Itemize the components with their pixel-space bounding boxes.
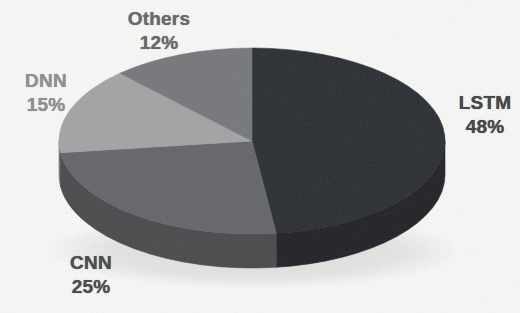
pie-label-cnn-pct: 25% xyxy=(70,275,112,299)
pie-label-lstm-name: LSTM xyxy=(459,91,512,115)
pie-label-lstm-pct: 48% xyxy=(459,115,512,139)
scanned-figure: Others 12% DNN 15% LSTM 48% CNN 25% xyxy=(0,0,520,313)
pie-label-cnn-name: CNN xyxy=(70,251,112,275)
pie-label-dnn-name: DNN xyxy=(25,69,67,93)
pie-label-others-pct: 12% xyxy=(128,31,190,55)
pie-label-cnn: CNN 25% xyxy=(70,251,112,299)
pie-label-others: Others 12% xyxy=(128,7,190,55)
pie-label-others-name: Others xyxy=(128,7,190,31)
pie-label-lstm: LSTM 48% xyxy=(459,91,512,139)
pie-label-dnn: DNN 15% xyxy=(25,69,67,117)
pie-label-dnn-pct: 15% xyxy=(25,93,67,117)
